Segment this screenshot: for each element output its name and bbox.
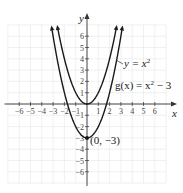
curve1-label: y = x2 [123,57,151,69]
x-tick-label: 4 [130,107,134,116]
x-tick-label: −2 [60,107,69,116]
x-tick-label: 5 [142,107,146,116]
y-tick-label: 2 [80,77,84,86]
curve-arrow-icon [50,25,54,30]
curve-arrow-icon [120,25,124,30]
x-tick-label: −3 [49,107,58,116]
x-tick-label: −4 [38,107,47,116]
curve1-leader-line [116,60,123,64]
y-tick-label: −4 [75,145,84,154]
x-tick-label: −5 [26,107,35,116]
y-tick-label: 5 [80,44,84,53]
y-tick-label: −2 [75,123,84,132]
y-tick-label: 3 [80,66,84,75]
vertex-label: (0, −3) [90,134,120,147]
y-tick-label: 4 [80,55,84,64]
curve2-label: g(x) = x2 − 3 [115,79,172,92]
y-tick-label: −5 [75,157,84,166]
y-tick-label: −3 [75,134,84,143]
parabola-chart: −6−5−4−3−2−1123456−6−5−4−3−2−1123456 y x… [0,0,183,193]
x-tick-label: 3 [119,107,123,116]
y-tick-label: 6 [80,32,84,41]
vertex-point [85,136,89,140]
y-axis-arrow-icon [85,13,90,19]
x-axis-label: x [171,107,177,119]
y-tick-label: −6 [75,168,84,177]
x-tick-label: −6 [15,107,24,116]
curve-arrow-icon [56,25,60,30]
x-tick-label: 2 [108,107,112,116]
curve-arrow-icon [114,25,118,30]
x-axis-arrow-icon [171,102,177,107]
y-tick-label: 1 [80,89,84,98]
x-tick-label: 6 [153,107,157,116]
y-axis-label: y [78,12,84,24]
x-tick-label: 1 [96,107,100,116]
y-tick-label: −1 [75,111,84,120]
